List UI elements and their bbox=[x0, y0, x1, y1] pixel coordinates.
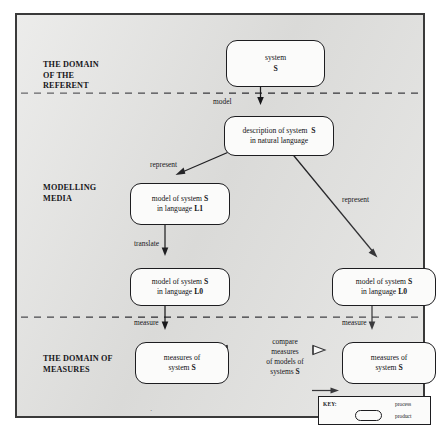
node-measures-right-line1: measures of bbox=[371, 353, 407, 364]
key-product-shape-icon bbox=[355, 410, 382, 421]
edge-label-represent-right: represent bbox=[342, 195, 369, 205]
edge-label-represent-left: represent bbox=[150, 160, 177, 170]
arrowhead-model-l0-to-measures-right bbox=[369, 322, 376, 331]
edge-label-measure-left: measure bbox=[134, 318, 159, 328]
key-process-arrowhead bbox=[331, 387, 340, 393]
node-measures-left-line2: system S bbox=[168, 363, 195, 374]
band-label-domain-of-measures: THE DOMAIN OF MEASURES bbox=[43, 354, 113, 375]
node-model-of-system-s-language-l0-left[interactable]: model of system S in language L0 bbox=[130, 268, 230, 306]
node-model-of-system-s-language-l1[interactable]: model of system S in language L1 bbox=[130, 183, 230, 225]
compare-line-4: systems S bbox=[248, 367, 322, 377]
node-measures-of-system-s-right[interactable]: measures of system S bbox=[342, 342, 436, 384]
node-system-s[interactable]: system S bbox=[226, 40, 325, 87]
compare-line-2: measures bbox=[248, 347, 322, 357]
diagram-frame: THE DOMAIN OF THE REFERENT MODELLING MED… bbox=[15, 13, 425, 418]
key-legend: KEY: process product bbox=[318, 396, 431, 425]
arrowhead-model-l1-to-model-l0 bbox=[162, 248, 169, 257]
band-label-modelling-media: MODELLING MEDIA bbox=[43, 183, 96, 204]
arrowhead-system-to-description bbox=[257, 97, 264, 105]
edge-label-compare-measures: compare measures of models of systems S bbox=[248, 337, 322, 377]
node-model-l0-right-line1: model of system S bbox=[356, 277, 412, 288]
node-model-l1-line2: in language L1 bbox=[157, 204, 203, 215]
node-model-l1-line1: model of system S bbox=[152, 194, 208, 205]
arrowhead-description-to-model-l0-right bbox=[369, 249, 378, 258]
node-measures-left-line1: measures of bbox=[164, 353, 200, 364]
diagram-page: THE DOMAIN OF THE REFERENT MODELLING MED… bbox=[0, 0, 438, 439]
node-system-s-line2: S bbox=[273, 64, 277, 75]
scan-artifact: · bbox=[150, 407, 152, 415]
node-model-l0-right-line2: in language L0 bbox=[361, 287, 407, 298]
key-legend-title: KEY: bbox=[323, 401, 337, 407]
node-description-line1: description of system S bbox=[243, 126, 316, 137]
edge-label-translate: translate bbox=[134, 239, 159, 249]
key-legend-product-label: product bbox=[395, 413, 411, 419]
node-measures-right-line2: system S bbox=[375, 363, 402, 374]
edge-label-model: model bbox=[213, 97, 231, 107]
node-model-l0-left-line2: in language L0 bbox=[157, 287, 203, 298]
node-model-l0-left-line1: model of system S bbox=[152, 277, 208, 288]
band-label-referent: THE DOMAIN OF THE REFERENT bbox=[43, 60, 99, 92]
compare-line-3: of models of bbox=[248, 357, 322, 367]
edge-label-measure-right: measure bbox=[342, 318, 367, 328]
node-measures-of-system-s-left[interactable]: measures of system S bbox=[135, 342, 229, 384]
node-description-of-system-s[interactable]: description of system S in natural langu… bbox=[224, 116, 334, 156]
node-description-line2: in natural language bbox=[250, 136, 308, 147]
compare-line-1: compare bbox=[248, 337, 322, 347]
node-model-of-system-s-language-l0-right[interactable]: model of system S in language L0 bbox=[332, 268, 436, 306]
arrowhead-model-l0-to-measures-left bbox=[162, 322, 169, 331]
node-system-s-line1: system bbox=[265, 53, 286, 64]
key-legend-process-label: process bbox=[395, 401, 411, 407]
